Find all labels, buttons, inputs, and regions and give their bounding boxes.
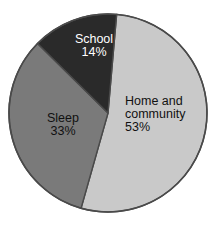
pie-label-school-value: 14% (64, 46, 124, 59)
pie-label-school: School 14% (64, 33, 124, 59)
pie-label-sleep-value: 33% (32, 125, 94, 138)
pie-chart-figure: School 14% Home and community 53% Sleep … (0, 0, 218, 226)
pie-label-home-and-community: Home and community 53% (125, 95, 201, 134)
pie-label-sleep: Sleep 33% (32, 112, 94, 138)
pie-label-home-value: 53% (125, 121, 201, 134)
